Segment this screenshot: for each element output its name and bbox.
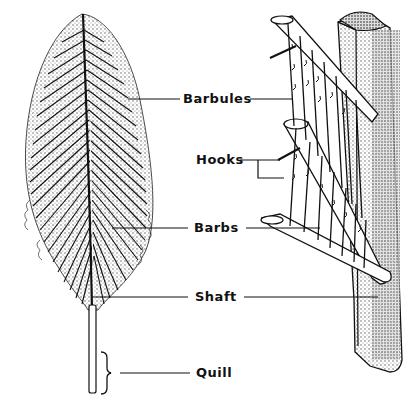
quill-brace <box>101 352 111 394</box>
feather-diagram: Barbules Hooks Barbs Shaft Quill <box>0 0 418 403</box>
label-barbules: Barbules <box>183 91 252 106</box>
barb-detail-illustration <box>261 12 402 372</box>
quill-shape <box>89 305 96 393</box>
label-barbs: Barbs <box>194 220 239 235</box>
diagram-canvas <box>0 0 418 403</box>
feather-illustration <box>25 14 153 394</box>
label-quill: Quill <box>196 365 232 380</box>
label-hooks: Hooks <box>196 152 244 167</box>
label-shaft: Shaft <box>195 289 237 304</box>
